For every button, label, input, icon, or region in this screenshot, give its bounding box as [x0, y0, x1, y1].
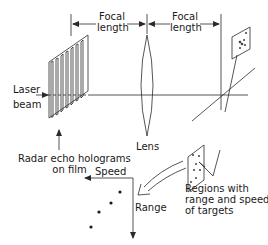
regions-label: Regions with range and speed of targets [185, 183, 268, 216]
lens [141, 35, 153, 136]
diffraction-rays [192, 55, 255, 121]
speed-axis-label: Speed [95, 166, 126, 177]
focal-length-label-2: Focal length [170, 11, 200, 33]
regions-label-line: of targets [185, 205, 268, 216]
holograms-label-line: Radar echo holograms [18, 153, 121, 164]
regions-label-line: Regions with [185, 183, 268, 194]
focal-label-line: length [97, 22, 127, 33]
laser-label-line: Laser [13, 82, 41, 97]
laser-beam-label: Laser beam [13, 82, 41, 112]
focal-label-line: Focal [170, 11, 200, 22]
regions-label-line: range and speed [185, 194, 268, 205]
focal-length-label-1: Focal length [97, 11, 127, 33]
focal-label-line: length [170, 22, 200, 33]
hologram-film-plate [49, 35, 88, 118]
transfer-arrow [138, 161, 186, 195]
focal-label-line: Focal [97, 11, 127, 22]
lens-label: Lens [136, 141, 159, 152]
speed-range-axes [85, 178, 133, 238]
target-points [89, 190, 121, 228]
region-pointer-lines [199, 150, 220, 176]
laser-label-line: beam [13, 97, 41, 112]
range-axis-label: Range [135, 202, 167, 213]
output-plate-top [232, 27, 250, 59]
